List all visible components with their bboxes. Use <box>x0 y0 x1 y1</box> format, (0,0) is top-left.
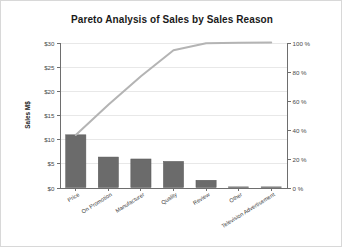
right-tick-label: 100 % <box>293 40 311 47</box>
left-axis-ticks: $0$5$10$15$20$25$30 <box>44 40 59 192</box>
left-tick-label: $15 <box>44 112 55 119</box>
axis-titles: Sales M$ <box>24 101 32 129</box>
right-axis-ticks: 0 %20 %40 %60 %80 %100 % <box>288 40 311 192</box>
category-label-other: Other <box>228 191 243 204</box>
left-tick-label: $30 <box>44 40 55 47</box>
left-tick-label: $20 <box>44 88 55 95</box>
bar-television-advertisement <box>261 187 281 188</box>
right-tick-label: 60 % <box>293 98 308 105</box>
pareto-chart-plot: $0$5$10$15$20$25$30 0 %20 %40 %60 %80 %1… <box>1 1 342 247</box>
right-tick-label: 80 % <box>293 69 308 76</box>
category-label-on-promotion: On Promotion <box>80 191 112 214</box>
cumulative-line-series <box>76 43 271 136</box>
bar-manufacturer <box>131 159 151 188</box>
chart-frame: Pareto Analysis of Sales by Sales Reason… <box>0 0 342 247</box>
category-label-quality: Quality <box>160 191 178 205</box>
right-tick-label: 0 % <box>293 185 304 192</box>
left-tick-label: $5 <box>48 160 55 167</box>
category-label-review: Review <box>192 191 212 206</box>
cumulative-percent-line <box>76 43 271 136</box>
bar-on-promotion <box>98 157 118 187</box>
left-tick-label: $25 <box>44 64 55 71</box>
y-axis-title: Sales M$ <box>24 101 32 129</box>
bar-series <box>66 135 282 188</box>
bar-price <box>66 135 86 188</box>
right-tick-label: 40 % <box>293 127 308 134</box>
category-label-television-advertisement: Television Advertisement <box>220 191 276 229</box>
right-tick-label: 20 % <box>293 156 308 163</box>
category-label-price: Price <box>66 191 80 203</box>
left-tick-label: $10 <box>44 136 55 143</box>
bar-review <box>196 180 216 187</box>
bar-quality <box>163 161 183 187</box>
bar-other <box>229 187 249 188</box>
category-axis-labels: PriceOn PromotionManufacturerQualityRevi… <box>66 188 276 229</box>
left-tick-label: $0 <box>48 185 55 192</box>
category-label-manufacturer: Manufacturer <box>114 191 145 214</box>
